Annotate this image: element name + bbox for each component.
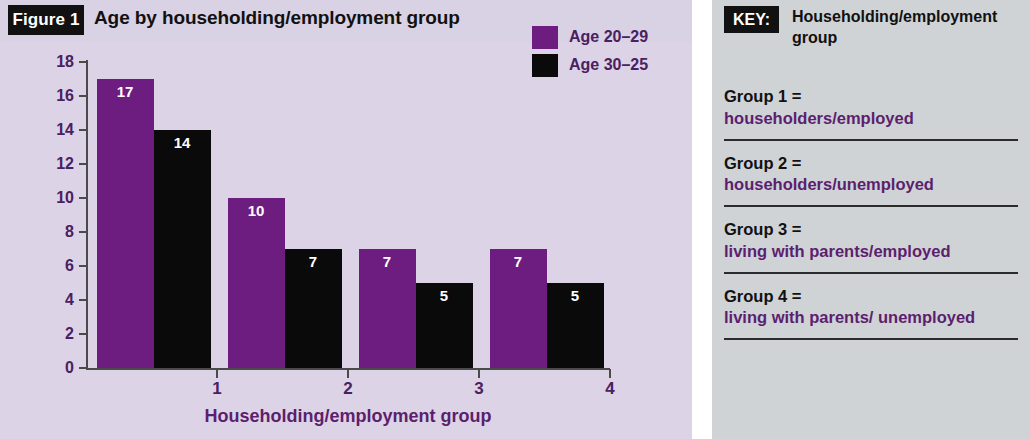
chart-panel: Figure 1 Age by householding/employment … (0, 0, 692, 439)
key-heading: Householding/employment group (792, 7, 1020, 49)
bar: 14 (154, 130, 211, 368)
bar-value-label: 5 (547, 287, 604, 304)
key-group-label: Group 2 = (724, 153, 1018, 175)
bar: 7 (359, 249, 416, 368)
y-axis-tick (79, 367, 87, 369)
bar-value-label: 10 (228, 202, 285, 219)
y-axis-tick-label: 14 (28, 121, 74, 139)
key-panel: KEY: Householding/employment group Group… (712, 0, 1030, 439)
key-item: Group 4 =living with parents/ unemployed (724, 286, 1018, 330)
y-axis-tick (79, 95, 87, 97)
legend-swatch-icon (532, 26, 558, 49)
y-axis-tick (79, 265, 87, 267)
bar: 17 (97, 79, 154, 368)
key-separator (724, 139, 1018, 141)
key-item: Group 1 =householders/employed (724, 86, 1018, 130)
legend-label: Age 20–29 (569, 28, 648, 46)
key-separator (724, 205, 1018, 207)
y-axis-tick (79, 299, 87, 301)
key-group-description: householders/unemployed (724, 174, 1018, 196)
x-axis-tick-label: 1 (202, 379, 232, 399)
bars-area: 17141077575 (88, 62, 610, 368)
y-axis-tick-label: 6 (28, 257, 74, 275)
key-separator (724, 338, 1018, 340)
y-axis-tick-label: 4 (28, 291, 74, 309)
key-badge: KEY: (724, 6, 779, 33)
y-axis-tick (79, 197, 87, 199)
x-axis-title: Householding/employment group (86, 406, 610, 427)
figure-title: Age by householding/employment group (94, 7, 460, 29)
y-axis-tick (79, 163, 87, 165)
x-axis-tick (347, 369, 349, 378)
y-axis-tick-label: 2 (28, 325, 74, 343)
key-group-description: householders/employed (724, 108, 1018, 130)
legend-item: Age 30–25 (532, 52, 648, 78)
bar-value-label: 17 (97, 83, 154, 100)
bar: 5 (416, 283, 473, 368)
y-axis-tick-label: 0 (28, 359, 74, 377)
y-axis-tick (79, 231, 87, 233)
bar: 5 (547, 283, 604, 368)
legend-swatch-icon (532, 54, 558, 77)
x-axis-tick-label: 3 (464, 379, 494, 399)
key-group-label: Group 3 = (724, 219, 1018, 241)
key-group-label: Group 1 = (724, 86, 1018, 108)
bar-value-label: 7 (285, 253, 342, 270)
legend-item: Age 20–29 (532, 24, 648, 50)
y-axis-tick-label: 8 (28, 223, 74, 241)
key-group-description: living with parents/employed (724, 241, 1018, 263)
bar: 7 (285, 249, 342, 368)
x-axis-tick (478, 369, 480, 378)
y-axis-labels: 181614121086420 (10, 0, 74, 439)
bar-value-label: 7 (490, 253, 547, 270)
chart-legend: Age 20–29Age 30–25 (532, 24, 648, 80)
x-axis-tick-label: 4 (595, 379, 625, 399)
key-group-description: living with parents/ unemployed (724, 307, 1018, 329)
bar: 10 (228, 198, 285, 368)
key-group-label: Group 4 = (724, 286, 1018, 308)
key-item-list: Group 1 =householders/employedGroup 2 =h… (724, 86, 1018, 352)
y-axis-tick-label: 18 (28, 53, 74, 71)
y-axis-tick (79, 61, 87, 63)
key-separator (724, 272, 1018, 274)
y-axis-tick (79, 333, 87, 335)
x-axis-tick (609, 369, 611, 378)
x-axis-tick-label: 2 (333, 379, 363, 399)
x-axis-tick (216, 369, 218, 378)
y-axis-tick-label: 16 (28, 87, 74, 105)
y-axis-tick-label: 12 (28, 155, 74, 173)
legend-label: Age 30–25 (569, 56, 648, 74)
key-item: Group 3 =living with parents/employed (724, 219, 1018, 263)
bar: 7 (490, 249, 547, 368)
bar-value-label: 14 (154, 134, 211, 151)
bar-value-label: 7 (359, 253, 416, 270)
y-axis-tick (79, 129, 87, 131)
key-item: Group 2 =householders/unemployed (724, 153, 1018, 197)
y-axis-tick-label: 10 (28, 189, 74, 207)
bar-value-label: 5 (416, 287, 473, 304)
